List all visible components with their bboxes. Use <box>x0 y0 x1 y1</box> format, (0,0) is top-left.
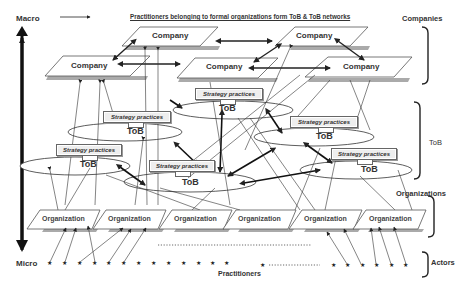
level-label-companies: Companies <box>402 14 442 23</box>
actor-star-icon: ★ <box>181 259 186 266</box>
actor-star-icon: ★ <box>374 261 379 268</box>
company-node: Company <box>71 61 107 70</box>
micro-label: Micro <box>16 259 37 268</box>
tob-node: ToB <box>127 126 144 136</box>
actor-star-icon: ★ <box>196 259 201 266</box>
tob-node: ToB <box>80 159 97 169</box>
organization-node: Organization <box>42 215 85 222</box>
organization-node: Organization <box>174 215 217 222</box>
diagram-title: Practitioners belonging to formal organi… <box>130 13 350 20</box>
company-node: Company <box>152 31 188 40</box>
actor-star-icon: ★ <box>360 261 365 268</box>
actor-star-icon: ★ <box>151 259 156 266</box>
organization-node: Organization <box>369 215 412 222</box>
level-label-tob: ToB <box>429 138 442 147</box>
level-label-organizations: Organizations <box>396 189 446 198</box>
actor-star-icon: ★ <box>331 261 336 268</box>
actor-star-icon: ★ <box>121 259 126 266</box>
actor-star-icon: ★ <box>47 259 52 266</box>
company-node: Company <box>343 62 379 71</box>
actor-star-icon: ★ <box>62 259 67 266</box>
tob-node: ToB <box>316 131 333 141</box>
organization-node: Organization <box>304 215 347 222</box>
tob-node: ToB <box>219 103 236 113</box>
company-node: Company <box>296 31 332 40</box>
tob-node: ToB <box>361 164 378 174</box>
organization-node: Organization <box>238 215 281 222</box>
company-node: Company <box>206 62 242 71</box>
tob-node: ToB <box>182 177 199 187</box>
organization-node: Organization <box>108 215 151 222</box>
actor-star-icon: ★ <box>260 261 265 268</box>
actor-star-icon: ★ <box>224 259 229 266</box>
actor-star-icon: ★ <box>77 259 82 266</box>
actor-star-icon: ★ <box>106 259 111 266</box>
actor-star-icon: ★ <box>166 259 171 266</box>
actor-star-icon: ★ <box>389 261 394 268</box>
actor-star-icon: ★ <box>210 259 215 266</box>
actor-star-icon: ★ <box>403 261 408 268</box>
macro-label: Macro <box>16 14 40 23</box>
actor-star-icon: ★ <box>92 259 97 266</box>
level-label-actors: Actors <box>431 258 455 267</box>
practitioners-label: Practitioners <box>218 270 261 277</box>
actor-star-icon: ★ <box>136 259 141 266</box>
actor-star-icon: ★ <box>345 261 350 268</box>
